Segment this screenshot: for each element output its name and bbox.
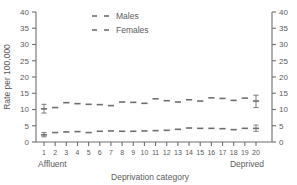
y-tick-label-left: 5 [25, 122, 30, 131]
y-tick-label-left: 40 [20, 8, 29, 17]
x-tick-label: 17 [219, 149, 227, 156]
x-tick-label: 6 [98, 149, 102, 156]
y-tick-label-right: 25 [279, 57, 288, 66]
x-tick-label: 12 [163, 149, 171, 156]
y-tick-label-left: 35 [20, 24, 29, 33]
x-axis-affluent-label: Affluent [38, 159, 67, 169]
y-tick-label-right: 40 [279, 8, 288, 17]
y-tick-label-right: 35 [279, 24, 288, 33]
x-tick-label: 18 [230, 149, 238, 156]
y-tick-label-left: 30 [20, 40, 29, 49]
x-tick-label: 16 [207, 149, 215, 156]
y-tick-label-right: 15 [279, 89, 288, 98]
y-tick-label-right: 10 [279, 105, 288, 114]
x-tick-label: 1 [42, 149, 46, 156]
deprivation-rate-chart: 0510152025303540051015202530354012345678… [0, 0, 297, 185]
y-tick-label-right: 30 [279, 40, 288, 49]
y-tick-label-left: 0 [25, 138, 30, 147]
x-axis-title: Deprivation category [111, 172, 190, 182]
x-tick-label: 11 [152, 149, 159, 156]
x-tick-label: 9 [131, 149, 135, 156]
x-tick-label: 13 [174, 149, 182, 156]
x-tick-label: 20 [252, 149, 260, 156]
y-tick-label-right: 5 [279, 122, 284, 131]
x-tick-label: 4 [76, 149, 80, 156]
y-tick-label-left: 25 [20, 57, 29, 66]
y-tick-label-right: 20 [279, 73, 288, 82]
x-tick-label: 14 [185, 149, 193, 156]
legend-item-males: Males [92, 11, 139, 21]
y-tick-label-left: 20 [20, 73, 29, 82]
x-tick-label: 7 [109, 149, 113, 156]
y-tick-label-left: 10 [20, 105, 29, 114]
x-tick-label: 5 [87, 149, 91, 156]
x-tick-label: 8 [120, 149, 124, 156]
x-axis-deprived-label: Deprived [230, 159, 264, 169]
series-males [41, 95, 259, 113]
series-females [41, 125, 259, 137]
x-tick-label: 19 [241, 149, 249, 156]
legend-item-females: Females [92, 25, 149, 35]
y-axis-title: Rate per 100,000 [2, 44, 12, 110]
legend-label: Males [116, 11, 139, 21]
y-tick-label-right: 0 [279, 138, 284, 147]
legend-label: Females [116, 25, 149, 35]
x-tick-label: 10 [141, 149, 149, 156]
chart-canvas: 0510152025303540051015202530354012345678… [0, 0, 297, 185]
x-tick-label: 2 [53, 149, 57, 156]
y-tick-label-left: 15 [20, 89, 29, 98]
x-tick-label: 3 [64, 149, 68, 156]
x-tick-label: 15 [196, 149, 204, 156]
